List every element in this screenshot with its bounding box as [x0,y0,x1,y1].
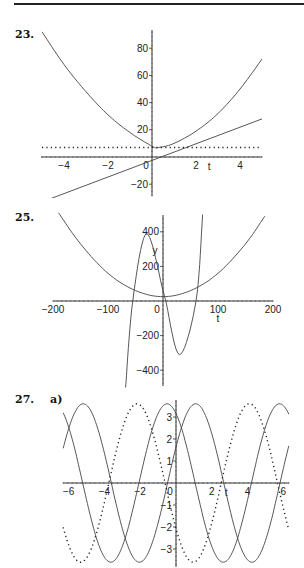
x-tick-label: 0 [154,304,160,315]
y-tick-label: 2 [166,434,172,445]
y-tick-label: −3 [161,544,173,555]
y-tick-label: −20 [131,179,148,190]
y-tick-label: 60 [137,70,149,81]
chart-2: −200−1000100200−400−200200400ty [42,213,282,388]
x-axis-label: t [217,313,220,324]
x-tick-label: 6 [281,486,287,497]
y-tick-label: 20 [137,124,149,135]
y-tick-label: −200 [136,330,159,341]
x-tick-label: 2 [209,486,215,497]
chart-1: −4−2024−2020406080t [41,30,262,202]
y-tick-label: 80 [137,43,149,54]
chart-3: −6−4−20246−3−2−1123t [63,400,289,567]
y-tick-label: 3 [166,412,172,423]
x-tick-label: −200 [42,304,65,315]
y-tick-label: 40 [137,97,149,108]
x-tick-label: −2 [102,160,114,171]
x-tick-label: −4 [58,160,70,171]
x-tick-label: 200 [265,304,282,315]
y-tick-label: −2 [161,522,173,533]
x-tick-label: 0 [167,486,173,497]
x-tick-label: −4 [99,486,111,497]
x-tick-label: −6 [63,486,75,497]
x-tick-label: −100 [97,304,120,315]
x-axis-label: t [208,161,211,172]
y-tick-label: −400 [136,365,159,376]
x-tick-label: 4 [237,160,243,171]
plots-canvas: −4−2024−2020406080t−200−1000100200−400−2… [0,0,304,568]
x-tick-label: 2 [193,160,199,171]
